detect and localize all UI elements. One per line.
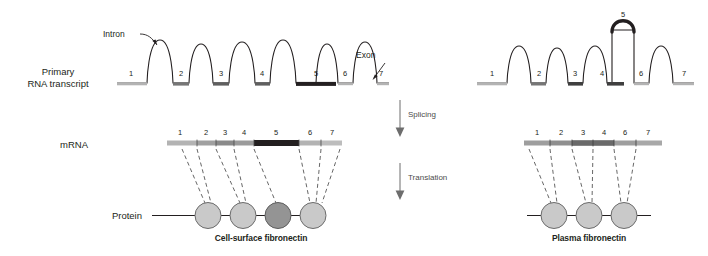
left-mrna-exon-number-2: 2: [204, 128, 208, 137]
left-protein-group: Protein Cell-surface fibronectin: [112, 203, 326, 244]
right-protein-group: Plasma fibronectin: [527, 203, 651, 244]
left-transcript-exon-number-3: 3: [219, 69, 223, 78]
left-mrna-exon-number-5: 5: [274, 128, 278, 137]
primary-transcript-label-line1: Primary: [42, 66, 75, 77]
left-transcript-exon-number-1: 1: [129, 69, 133, 78]
right-mrna-exon-number-1: 1: [535, 128, 539, 137]
right-transcript-backbone: [477, 30, 694, 83]
right-mrna-exon-1: [524, 141, 550, 146]
left-transcript-exon-3: [213, 82, 229, 85]
right-branch-caption: Plasma fibronectin: [552, 233, 626, 243]
right-transcript-exon-number-1: 1: [490, 69, 494, 78]
left-mrna-exon-5: [254, 140, 299, 146]
exon-annotation-label: Exon: [356, 50, 376, 60]
right-transcript-exon-3: [568, 82, 583, 86]
right-mrna-exon-6: [614, 141, 636, 146]
right-transcript-exon-number-6: 6: [639, 69, 643, 78]
alternative-splicing-diagram: Primary RNA transcript 1 2 3 4 5 6 7 Int…: [0, 0, 708, 256]
left-transcript-backbone: [117, 40, 389, 83]
right-primary-transcript-group: 1 2 3 4 5 6 7: [477, 10, 694, 86]
left-primary-transcript-group: Primary RNA transcript 1 2 3 4 5 6 7 Int…: [27, 29, 389, 89]
left-protein-domain-1: [195, 203, 221, 229]
left-mrna-exon-number-1: 1: [178, 128, 182, 137]
right-transcript-exon-number-4: 4: [600, 69, 604, 78]
right-protein-domain-3: [611, 203, 637, 229]
splicing-arrow-label: Splicing: [408, 110, 436, 119]
left-protein-domain-4: [300, 203, 326, 229]
left-mrna-exon-4: [234, 141, 254, 146]
left-mrna-exon-6: [299, 141, 321, 146]
left-protein-domain-3: [265, 203, 291, 229]
left-transcript-exon-2: [173, 82, 189, 85]
primary-transcript-label-line2: RNA transcript: [27, 78, 89, 89]
figure-canvas: Primary RNA transcript 1 2 3 4 5 6 7 Int…: [0, 0, 708, 256]
mrna-label-left: mRNA: [60, 139, 89, 150]
left-transcript-exon-5: [296, 82, 336, 86]
right-mrna-group: 1 2 3 4 6 7: [524, 128, 662, 146]
translation-arrow-head: [396, 191, 405, 201]
right-mrna-exon-number-4: 4: [602, 128, 606, 137]
left-transcript-exon-7: [377, 82, 389, 85]
right-mrna-exon-number-3: 3: [581, 128, 585, 137]
splicing-arrow-head: [396, 128, 405, 138]
translation-arrow-label: Translation: [408, 173, 447, 182]
right-protein-domain-2: [576, 203, 602, 229]
process-arrows-group: Splicing Translation: [396, 100, 448, 200]
right-mrna-exon-7: [636, 141, 662, 146]
left-transcript-exon-4: [255, 82, 270, 85]
left-mrna-exon-3: [216, 141, 234, 146]
right-transcript-exon-6: [634, 82, 649, 85]
left-protein-domain-2: [230, 203, 256, 229]
right-transcript-exon-1: [477, 82, 507, 85]
right-mrna-exon-3: [572, 140, 593, 146]
left-mrna-exon-1: [167, 141, 197, 146]
right-transcript-exon-number-5: 5: [621, 10, 625, 19]
right-transcript-exon-7: [673, 82, 694, 85]
left-transcript-exon-number-5: 5: [314, 69, 318, 78]
right-transcript-exon-2: [531, 82, 546, 85]
intron-annotation-label: Intron: [103, 29, 125, 39]
left-mrna-exon-number-6: 6: [308, 128, 312, 137]
right-transcript-exon-number-3: 3: [573, 69, 577, 78]
left-transcript-exon-number-2: 2: [179, 69, 183, 78]
right-mrna-exon-4: [593, 140, 614, 146]
left-transcript-exon-1: [117, 82, 147, 85]
left-branch-caption: Cell-surface fibronectin: [215, 233, 308, 243]
left-transcript-exon-6: [338, 82, 353, 85]
right-correspondence-lines: [529, 149, 636, 203]
right-mrna-exon-2: [550, 141, 572, 146]
left-mrna-exon-number-7: 7: [330, 128, 334, 137]
protein-label-left: Protein: [112, 210, 142, 221]
left-mrna-exon-number-4: 4: [242, 128, 246, 137]
left-mrna-exon-2: [197, 141, 216, 146]
left-transcript-exon-number-4: 4: [260, 69, 264, 78]
right-transcript-exon-4: [607, 82, 624, 86]
right-transcript-exon-number-7: 7: [682, 69, 686, 78]
right-mrna-exon-number-6: 6: [623, 128, 627, 137]
right-mrna-exon-number-2: 2: [559, 128, 563, 137]
left-mrna-group: mRNA 1 2 3 4 5 6 7: [60, 128, 342, 150]
left-mrna-exon-number-3: 3: [223, 128, 227, 137]
right-protein-domain-1: [541, 203, 567, 229]
right-mrna-exon-number-7: 7: [646, 128, 650, 137]
right-transcript-exon-number-2: 2: [537, 69, 541, 78]
left-mrna-exon-7: [321, 141, 342, 146]
left-transcript-exon-number-6: 6: [343, 69, 347, 78]
left-correspondence-lines: [182, 149, 340, 203]
